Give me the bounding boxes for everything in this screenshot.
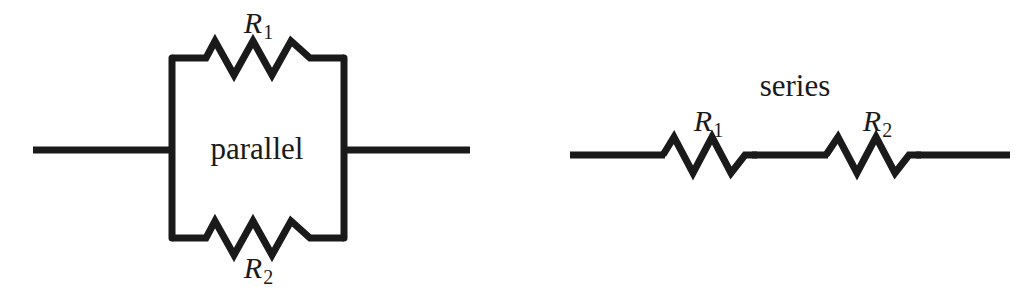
- parallel-r2-resistor-symbol: [172, 221, 344, 255]
- parallel-r1-subscript: 1: [263, 21, 273, 43]
- series-title-label: series: [760, 70, 831, 101]
- parallel-r2-symbol: R: [244, 251, 262, 284]
- circuit-schematic-canvas: [0, 0, 1029, 294]
- parallel-r1-symbol: R: [244, 6, 262, 39]
- parallel-r1-label: R1: [244, 8, 272, 38]
- series-r2-resistor-symbol: [826, 137, 921, 173]
- series-r2-symbol: R: [863, 104, 881, 137]
- series-r1-label: R1: [694, 106, 722, 136]
- parallel-center-label: parallel: [211, 133, 304, 164]
- series-r2-label: R2: [863, 106, 891, 136]
- series-r1-subscript: 1: [713, 119, 723, 141]
- series-r2-subscript: 2: [882, 119, 892, 141]
- parallel-r2-label: R2: [244, 253, 272, 283]
- series-r1-symbol: R: [694, 104, 712, 137]
- series-r1-resistor-symbol: [663, 137, 757, 173]
- parallel-r2-subscript: 2: [263, 266, 273, 288]
- parallel-r1-resistor-symbol: [172, 41, 344, 75]
- series-circuit-group: [570, 137, 1010, 173]
- circuit-diagram-figure: R1 parallel R2 series R1 R2: [0, 0, 1029, 294]
